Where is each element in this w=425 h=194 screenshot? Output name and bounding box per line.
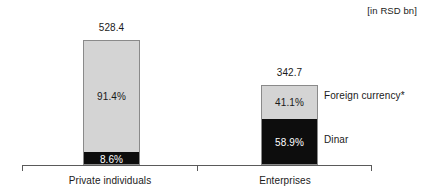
category-label-enterprises: Enterprises (198, 175, 372, 186)
bar-private-dinar-label: 8.6% (100, 154, 123, 165)
bar-enterprises: 41.1% 58.9% (261, 85, 318, 165)
bar-total-private: 528.4 (83, 22, 140, 33)
bar-private-segment-dinar: 8.6% (84, 152, 139, 165)
category-label-private-individuals: Private individuals (22, 175, 198, 186)
bar-private-segment-foreign: 91.4% (84, 41, 139, 152)
bar-total-enterprises: 342.7 (261, 67, 318, 78)
legend-label-foreign-currency: Foreign currency* (324, 90, 405, 101)
bar-private-foreign-label: 91.4% (97, 91, 126, 102)
bar-enterprises-foreign-label: 41.1% (275, 97, 304, 108)
bar-private: 91.4% 8.6% (83, 40, 140, 165)
unit-note: [in RSD bn] (367, 5, 417, 16)
legend-label-dinar: Dinar (324, 134, 348, 145)
bar-enterprises-segment-dinar: 58.9% (262, 119, 317, 165)
stacked-bar-chart: [in RSD bn] 528.4 91.4% 8.6% 342.7 41.1%… (0, 0, 425, 194)
bar-enterprises-dinar-label: 58.9% (275, 137, 304, 148)
bar-enterprises-segment-foreign: 41.1% (262, 86, 317, 119)
